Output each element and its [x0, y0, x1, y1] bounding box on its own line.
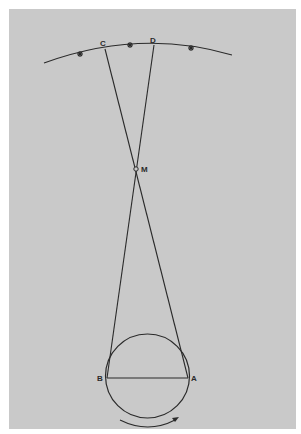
- label-b: B: [97, 374, 103, 383]
- rotation-arrow: [120, 420, 175, 427]
- label-d: D: [150, 36, 156, 45]
- line-b-to-d: [107, 45, 154, 378]
- sky-arc: [44, 43, 232, 63]
- label-c: C: [100, 39, 106, 48]
- label-a: A: [191, 374, 197, 383]
- star-icon: [127, 42, 133, 48]
- label-m: M: [141, 165, 148, 174]
- diagram-canvas: C D M B A: [0, 0, 301, 434]
- point-m: [134, 167, 138, 171]
- rotating-circle: [106, 334, 190, 418]
